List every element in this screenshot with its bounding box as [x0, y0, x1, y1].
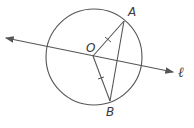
circle-o [46, 9, 142, 105]
label-b: B [106, 105, 114, 119]
label-a: A [127, 5, 136, 19]
label-o: O [86, 41, 95, 55]
diagram-canvas: A O B ℓ [0, 0, 194, 128]
radius-ob [93, 56, 110, 101]
label-line-l: ℓ [178, 64, 184, 80]
chord-ab [110, 21, 124, 101]
geometry-diagram: A O B ℓ [0, 0, 194, 128]
